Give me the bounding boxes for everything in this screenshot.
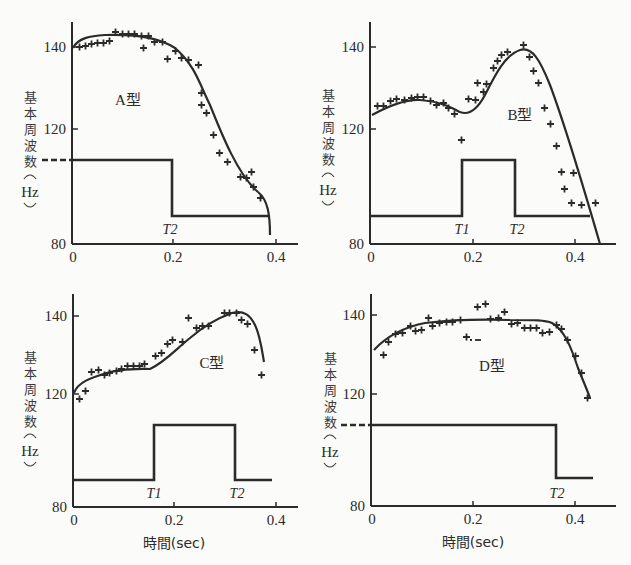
svg-text:周: 周 <box>24 382 37 397</box>
xtick-0.4: 0.4 <box>566 249 585 265</box>
ytick-120: 120 <box>44 121 67 137</box>
ytick-140: 140 <box>343 307 366 323</box>
t2-label: T2 <box>510 222 525 237</box>
x-axis-label: 時間(sec) <box>442 534 505 550</box>
xtick-0.2: 0.2 <box>164 249 183 265</box>
panel-type-label: D型 <box>479 358 505 374</box>
svg-text:本: 本 <box>24 106 37 121</box>
y-axis-label: 基 本 周 波 数 Hz <box>21 350 39 466</box>
xtick-0: 0 <box>367 249 375 265</box>
panel-d: 140 120 80 0 0.2 0.4 時間(sec) 基 本 周 波 数 H… <box>321 294 616 550</box>
xtick-0.2: 0.2 <box>464 511 483 527</box>
svg-text:Hz: Hz <box>21 184 39 200</box>
ytick-140: 140 <box>342 39 365 55</box>
data-points <box>374 42 599 209</box>
svg-text:数: 数 <box>324 415 337 430</box>
svg-text:基: 基 <box>24 350 37 365</box>
svg-text:波: 波 <box>24 138 37 153</box>
svg-text:波: 波 <box>322 136 335 151</box>
figure: 140 120 80 0 0.2 0.4 基 本 周 波 数 Hz T2 A型 <box>0 0 631 565</box>
fitted-curve <box>74 312 264 393</box>
xtick-0: 0 <box>368 511 376 527</box>
svg-text:Hz: Hz <box>319 182 337 198</box>
svg-text:基: 基 <box>24 90 37 105</box>
svg-text:基: 基 <box>324 351 337 366</box>
svg-text:基: 基 <box>322 88 335 103</box>
command-step <box>371 425 593 478</box>
xtick-0: 0 <box>69 249 77 265</box>
y-axis-label: 基 本 周 波 数 Hz <box>321 351 339 467</box>
ytick-120: 120 <box>45 386 68 402</box>
data-points <box>380 301 591 402</box>
xtick-0.4: 0.4 <box>267 512 286 528</box>
xtick-0: 0 <box>70 512 78 528</box>
ytick-140: 140 <box>44 39 67 55</box>
x-axis-label: 時間(sec) <box>143 535 206 551</box>
ytick-80: 80 <box>350 498 365 514</box>
t2-label: T2 <box>163 222 178 237</box>
ytick-120: 120 <box>342 121 365 137</box>
panel-a: 140 120 80 0 0.2 0.4 基 本 周 波 数 Hz T2 A型 <box>21 22 298 265</box>
svg-text:本: 本 <box>324 367 337 382</box>
ytick-80: 80 <box>52 499 67 515</box>
svg-text:数: 数 <box>322 152 335 167</box>
data-points <box>76 29 264 202</box>
svg-text:周: 周 <box>24 122 37 137</box>
ytick-120: 120 <box>343 386 366 402</box>
svg-text:波: 波 <box>324 399 337 414</box>
svg-text:Hz: Hz <box>21 443 39 459</box>
panel-type-label: B型 <box>507 107 532 123</box>
t1-label: T1 <box>147 486 162 501</box>
panel-c: 140 120 80 0 0.2 0.4 時間(sec) 基 本 周 波 数 H… <box>21 294 298 551</box>
y-axis-label: 基 本 周 波 数 Hz <box>21 90 39 207</box>
xtick-0.2: 0.2 <box>165 512 184 528</box>
ytick-80: 80 <box>349 236 364 252</box>
panel-b: 140 120 80 0 0.2 0.4 基 本 周 波 数 Hz T1 T2 … <box>319 22 616 265</box>
panel-type-label: C型 <box>199 355 224 371</box>
t2-label: T2 <box>230 486 245 501</box>
t1-label: T1 <box>455 222 470 237</box>
y-axis-label: 基 本 周 波 数 Hz <box>319 88 337 205</box>
svg-text:波: 波 <box>24 398 37 413</box>
svg-text:本: 本 <box>24 366 37 381</box>
panel-type-label: A型 <box>115 92 141 108</box>
svg-text:本: 本 <box>322 104 335 119</box>
command-pulse <box>73 425 272 480</box>
svg-text:数: 数 <box>24 154 37 169</box>
xtick-0.4: 0.4 <box>566 511 585 527</box>
ytick-140: 140 <box>45 308 68 324</box>
xtick-0.4: 0.4 <box>267 249 286 265</box>
xtick-0.2: 0.2 <box>464 249 483 265</box>
svg-text:Hz: Hz <box>321 444 339 460</box>
command-pulse <box>370 160 590 216</box>
t2-label: T2 <box>550 486 565 501</box>
svg-text:周: 周 <box>324 383 337 398</box>
ytick-80: 80 <box>51 236 66 252</box>
svg-text:数: 数 <box>24 414 37 429</box>
svg-text:周: 周 <box>322 120 335 135</box>
